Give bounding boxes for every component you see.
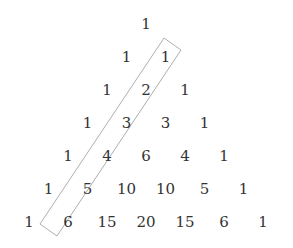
triangle-entry: 1 — [219, 149, 229, 164]
triangle-entry: 20 — [136, 215, 155, 230]
triangle-entry: 1 — [258, 215, 268, 230]
triangle-entry: 1 — [83, 116, 93, 131]
triangle-entry: 5 — [83, 182, 93, 197]
diagonal-highlight-box — [40, 38, 181, 236]
highlight-layer — [0, 0, 293, 248]
triangle-entry: 1 — [63, 149, 73, 164]
triangle-entry: 3 — [161, 116, 171, 131]
triangle-entry: 6 — [63, 215, 73, 230]
triangle-entry: 10 — [117, 182, 136, 197]
triangle-entry: 3 — [122, 116, 132, 131]
triangle-entry: 1 — [200, 116, 210, 131]
triangle-entry: 6 — [141, 149, 151, 164]
triangle-entry: 5 — [200, 182, 210, 197]
triangle-entry: 1 — [122, 50, 132, 65]
triangle-entry: 1 — [24, 215, 34, 230]
triangle-entry: 6 — [219, 215, 229, 230]
triangle-entry: 1 — [44, 182, 54, 197]
triangle-entry: 4 — [102, 149, 112, 164]
triangle-entry: 1 — [239, 182, 249, 197]
triangle-entry: 1 — [180, 83, 190, 98]
triangle-entry: 1 — [141, 17, 151, 32]
triangle-entry: 1 — [102, 83, 112, 98]
triangle-entry: 10 — [156, 182, 175, 197]
triangle-entry: 2 — [141, 83, 151, 98]
pascal-triangle: 111121133114641151010511615201561 — [0, 0, 293, 248]
triangle-entry: 4 — [180, 149, 190, 164]
triangle-entry: 1 — [161, 50, 171, 65]
triangle-entry: 15 — [97, 215, 116, 230]
triangle-entry: 15 — [175, 215, 194, 230]
